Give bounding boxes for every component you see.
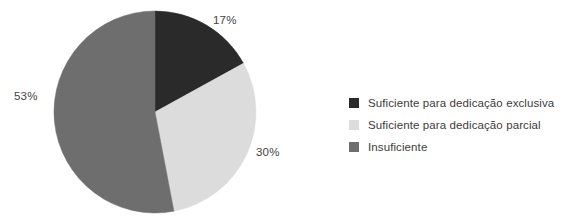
legend-item-insuficiente[interactable]: Insuficiente [349, 136, 581, 158]
pie-svg [0, 0, 320, 220]
legend-item-suficiente-parcial[interactable]: Suficiente para dedicação parcial [349, 114, 581, 136]
pie-slice-group [54, 11, 256, 213]
pie-chart-figure: 17% 30% 53% Suficiente para dedicação ex… [0, 0, 582, 220]
legend-swatch-icon-2 [349, 142, 359, 152]
legend-label-0: Suficiente para dedicação exclusiva [368, 97, 554, 110]
pie-value-label-2: 53% [14, 90, 38, 102]
pie-value-label-0: 17% [213, 14, 237, 26]
chart-legend: Suficiente para dedicação exclusiva Sufi… [349, 92, 581, 158]
pie-value-label-1: 30% [256, 146, 280, 158]
pie-plot-area: 17% 30% 53% [0, 0, 320, 220]
legend-item-suficiente-exclusiva[interactable]: Suficiente para dedicação exclusiva [349, 92, 581, 114]
legend-swatch-icon-1 [349, 120, 359, 130]
legend-swatch-icon-0 [349, 98, 359, 108]
legend-label-2: Insuficiente [368, 141, 427, 154]
legend-label-1: Suficiente para dedicação parcial [368, 119, 541, 132]
